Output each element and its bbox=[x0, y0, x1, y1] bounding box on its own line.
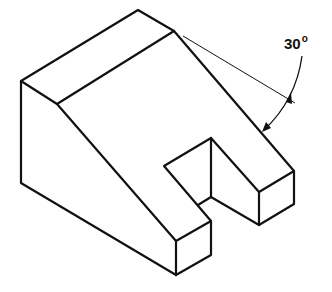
left-face-edge bbox=[21, 81, 176, 275]
angle-dimension-arc bbox=[264, 56, 302, 130]
extension-line bbox=[183, 36, 295, 103]
right-block bbox=[259, 171, 294, 225]
isometric-drawing bbox=[0, 0, 332, 292]
angle-label: 30o bbox=[284, 35, 308, 52]
angle-value: 30 bbox=[284, 35, 301, 52]
incline-left-edge bbox=[57, 104, 176, 241]
slot-floor-edge bbox=[198, 197, 211, 205]
left-block bbox=[176, 221, 211, 275]
top-face bbox=[21, 10, 174, 104]
slot-right-wall bbox=[211, 138, 259, 225]
slot-left-wall bbox=[164, 138, 211, 221]
degree-symbol: o bbox=[302, 33, 308, 44]
